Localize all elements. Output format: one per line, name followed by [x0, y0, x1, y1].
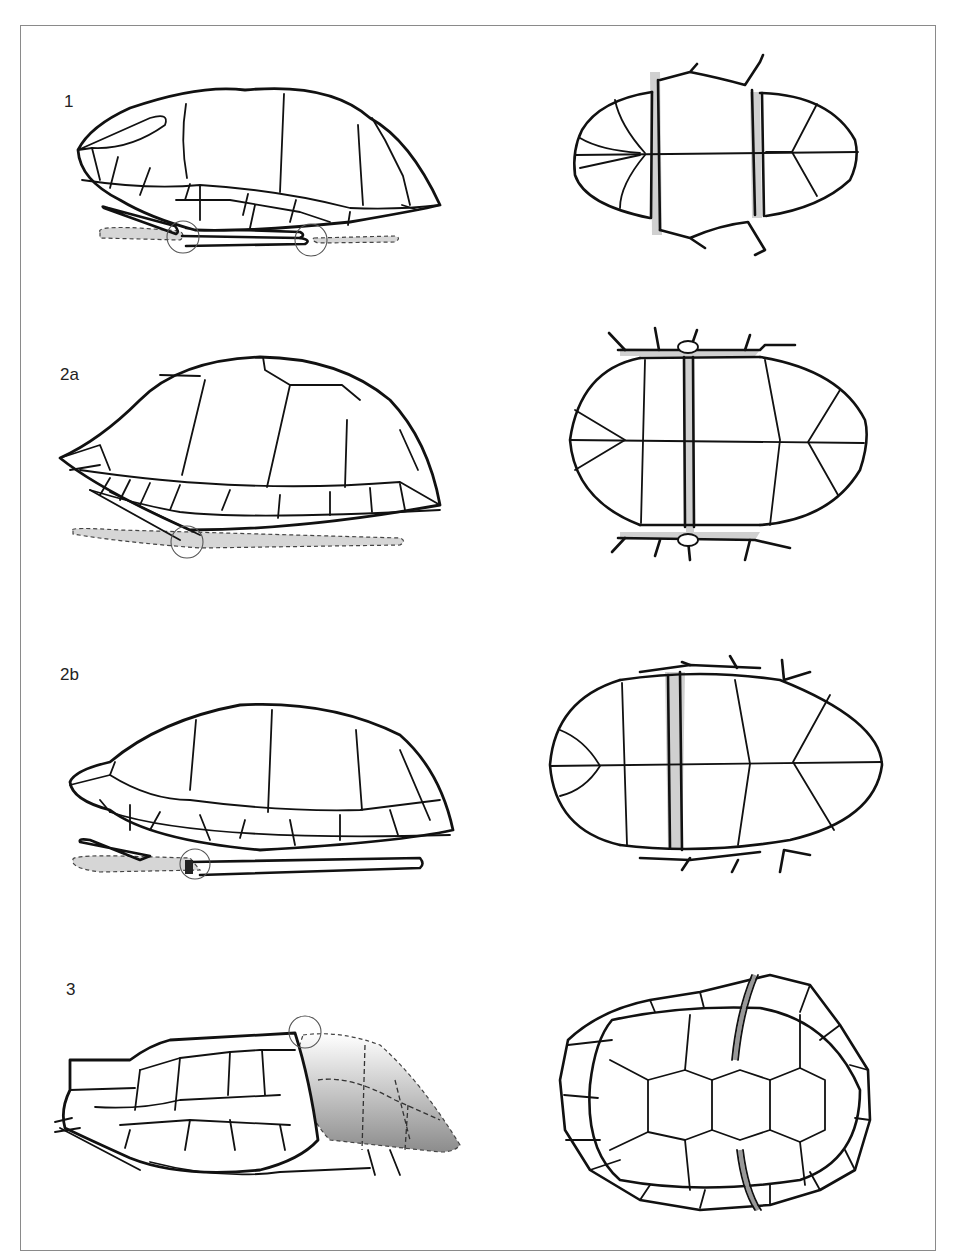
carapace-outline	[63, 1033, 318, 1172]
turtle-shell-diagram	[0, 0, 957, 1258]
panel-2b-lateral-view	[70, 704, 453, 879]
hinge-region-shade	[73, 529, 404, 549]
panel-3-carapace-view	[560, 975, 870, 1210]
panel-2a-lateral-view	[60, 357, 440, 558]
hinge-region-shade	[100, 228, 183, 241]
panel-2a-plastron-view	[570, 328, 867, 560]
panel-3-lateral-view	[55, 1016, 460, 1175]
hinge-region-shade	[313, 236, 399, 243]
carapace-marginal-outline	[560, 975, 870, 1210]
panel-2b-plastron-view	[550, 656, 882, 872]
panel-1-lateral-view	[78, 89, 440, 256]
panel-1-plastron-view	[574, 55, 858, 255]
reconstructed-shell-region	[298, 1034, 460, 1152]
